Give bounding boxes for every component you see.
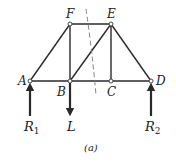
node-F — [68, 22, 72, 26]
node-B — [68, 79, 72, 83]
label-A: A — [17, 74, 27, 88]
member-AF — [30, 24, 70, 81]
label-E: E — [106, 7, 116, 21]
label-D: D — [155, 74, 166, 88]
node-D — [149, 79, 153, 83]
label-R2: R2 — [144, 119, 161, 136]
truss-members — [30, 24, 151, 81]
member-BE — [70, 24, 111, 81]
node-C — [109, 79, 113, 83]
label-L: L — [66, 119, 76, 134]
label-R1: R1 — [23, 119, 40, 136]
label-C: C — [107, 85, 116, 99]
label-F: F — [65, 7, 75, 21]
node-E — [109, 22, 113, 26]
figure-caption: (a) — [84, 142, 98, 153]
node-A — [28, 79, 32, 83]
forces — [30, 83, 151, 116]
member-ED — [111, 24, 151, 81]
truss-diagram: A B C D E F R1 L R2 (a) — [0, 0, 176, 162]
label-B: B — [56, 85, 66, 99]
